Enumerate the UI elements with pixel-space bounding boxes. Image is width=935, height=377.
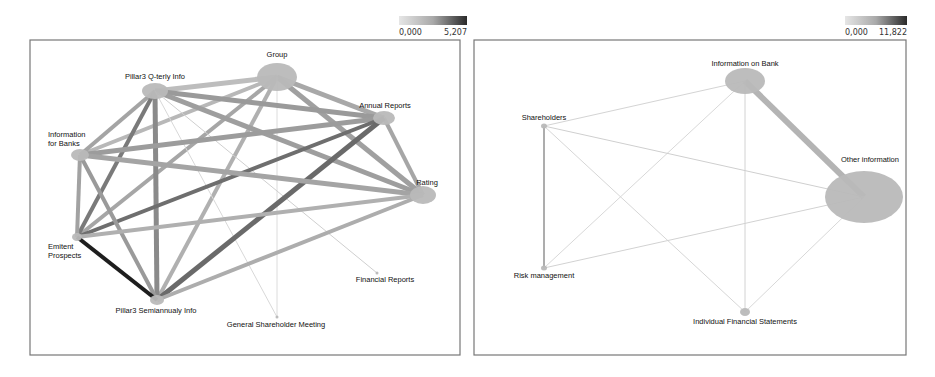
node-label-ifs: Individual Financial Statements xyxy=(693,317,797,326)
right-scale-gradient xyxy=(845,16,907,25)
node-infobanks[interactable] xyxy=(71,149,89,161)
node-annual[interactable] xyxy=(373,111,395,125)
right-scale-max: 11,822 xyxy=(879,28,907,37)
node-label-risk: Risk management xyxy=(514,271,575,280)
node-label-emitent: Emitent xyxy=(48,242,74,251)
node-label-line2-infobanks: for Banks xyxy=(48,139,80,148)
node-label-rating: Rating xyxy=(416,178,438,187)
edge-group-pillar3s xyxy=(157,77,277,300)
right-network-panel: 0,000 11,822 Information on BankSharehol… xyxy=(474,16,907,355)
right-edges xyxy=(544,81,864,312)
left-network-panel: 0,000 5,207 GroupPillar3 Q-terly InfoAnn… xyxy=(30,16,467,355)
left-scale-gradient xyxy=(399,16,467,25)
left-color-scale: 0,000 5,207 xyxy=(399,16,467,37)
node-pillar3s[interactable] xyxy=(150,295,164,305)
right-color-scale: 0,000 11,822 xyxy=(845,16,907,37)
node-label-gsm: General Shareholder Meeting xyxy=(227,320,325,329)
node-label-shareholders: Shareholders xyxy=(522,113,567,122)
node-ifs[interactable] xyxy=(740,308,750,316)
node-gsm[interactable] xyxy=(276,316,279,319)
right-scale-min: 0,000 xyxy=(845,28,868,37)
node-label-line2-emitent: Prospects xyxy=(48,251,82,260)
node-group[interactable] xyxy=(257,63,297,91)
node-label-pillar3q: Pillar3 Q-terly Info xyxy=(125,72,185,81)
edge-infobanks-emitent xyxy=(77,155,80,237)
node-label-infobanks: Information xyxy=(48,130,86,139)
node-other[interactable] xyxy=(825,171,903,223)
edge-infobank-shareholders xyxy=(544,81,745,126)
node-rating[interactable] xyxy=(410,186,436,204)
node-shareholders[interactable] xyxy=(541,124,547,129)
node-pillar3q[interactable] xyxy=(142,83,168,99)
node-risk[interactable] xyxy=(541,266,547,271)
node-label-group: Group xyxy=(267,50,288,59)
left-scale-max: 5,207 xyxy=(444,28,467,37)
node-infobank[interactable] xyxy=(725,68,765,94)
node-label-other: Other information xyxy=(841,155,899,164)
edge-shareholders-other xyxy=(544,126,864,197)
node-label-pillar3s: Pillar3 Semiannualy Info xyxy=(116,306,197,315)
right-nodes xyxy=(541,68,903,316)
network-diagram: 0,000 5,207 GroupPillar3 Q-terly InfoAnn… xyxy=(0,0,935,377)
edge-pillar3q-pillar3s xyxy=(155,91,157,300)
edge-risk-other xyxy=(544,197,864,268)
edge-shareholders-ifs xyxy=(544,126,745,312)
node-label-financial: Financial Reports xyxy=(356,275,415,284)
node-emitent[interactable] xyxy=(72,233,82,241)
edge-emitent-pillar3s xyxy=(77,237,157,300)
node-label-infobank: Information on Bank xyxy=(711,59,778,68)
edge-group-rating xyxy=(277,77,423,195)
node-label-annual: Annual Reports xyxy=(359,101,411,110)
left-scale-min: 0,000 xyxy=(399,28,422,37)
edge-infobank-risk xyxy=(544,81,745,268)
